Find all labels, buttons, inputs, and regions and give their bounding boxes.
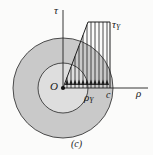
tau-axis-label: τ [54,5,58,16]
origin-label: O [50,81,58,92]
elastoplastic-torsion-figure: τ τY ρ ρY c O (c) [0,0,153,155]
tau-yield-subscript: Y [116,23,120,32]
figure-caption: (c) [0,139,153,149]
figure-graphics [0,0,153,155]
rho-axis-label: ρ [136,88,141,99]
outer-radius-label: c [106,90,110,100]
origin-point-marker [61,86,65,90]
rho-yield-label: ρY [84,92,93,103]
tau-yield-label: τY [112,19,120,30]
rho-yield-subscript: Y [89,96,93,105]
